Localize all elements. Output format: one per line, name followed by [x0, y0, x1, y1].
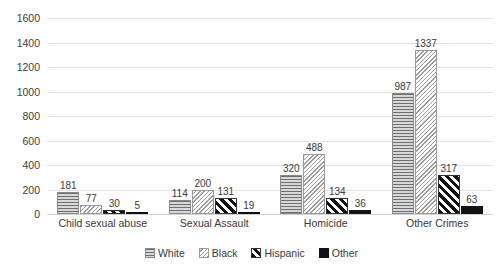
- bar-value-label: 320: [283, 164, 300, 174]
- bar-slot: 63: [461, 18, 483, 214]
- y-axis-tick-label: 0: [0, 209, 40, 220]
- bar-value-label: 181: [60, 181, 77, 191]
- bar-other-1[interactable]: 19: [238, 212, 260, 214]
- bar-slot: 134: [326, 18, 348, 214]
- bar-slot: 19: [238, 18, 260, 214]
- bar-hispanic-0[interactable]: 30: [103, 210, 125, 214]
- x-axis-category-label: Child sexual abuse: [47, 218, 159, 230]
- bar-value-label: 134: [329, 187, 346, 197]
- bar-slot: 317: [438, 18, 460, 214]
- bar-white-3[interactable]: 987: [392, 93, 414, 214]
- y-axis-tick-label: 200: [0, 185, 40, 196]
- bar-black-3[interactable]: 1337: [415, 50, 437, 214]
- y-axis-tick-label: 1200: [0, 62, 40, 73]
- bar-slot: 131: [215, 18, 237, 214]
- bar-slot: 30: [103, 18, 125, 214]
- bar-value-label: 131: [217, 187, 234, 197]
- x-axis-category-label: Other Crimes: [382, 218, 494, 230]
- bar-groups: 1817730511420013119320488134369871337317…: [47, 18, 493, 214]
- bar-slot: 200: [192, 18, 214, 214]
- bar-hispanic-1[interactable]: 131: [215, 198, 237, 214]
- bar-black-2[interactable]: 488: [303, 154, 325, 214]
- bar-other-3[interactable]: 63: [461, 206, 483, 214]
- bar-other-0[interactable]: 5: [126, 212, 148, 214]
- y-axis-tick-label: 1400: [0, 38, 40, 49]
- bar-white-1[interactable]: 114: [169, 200, 191, 214]
- legend-label: Other: [332, 248, 358, 259]
- x-axis-category-label: Homicide: [270, 218, 382, 230]
- axis-baseline: [47, 214, 493, 215]
- bar-group: 11420013119: [159, 18, 271, 214]
- bar-hispanic-2[interactable]: 134: [326, 198, 348, 214]
- bar-slot: 5: [126, 18, 148, 214]
- x-axis-category-label: Sexual Assault: [159, 218, 271, 230]
- bar-slot: 1337: [415, 18, 437, 214]
- legend-item-black[interactable]: Black: [199, 248, 238, 259]
- bar-slot: 36: [349, 18, 371, 214]
- legend-swatch-icon: [251, 248, 261, 258]
- bar-other-2[interactable]: 36: [349, 210, 371, 214]
- bar-slot: 320: [280, 18, 302, 214]
- bar-value-label: 63: [466, 195, 477, 205]
- bar-value-label: 488: [306, 143, 323, 153]
- bar-value-label: 77: [86, 194, 97, 204]
- y-axis-tick-label: 400: [0, 160, 40, 171]
- bar-white-2[interactable]: 320: [280, 175, 302, 214]
- y-axis-tick-label: 800: [0, 111, 40, 122]
- bar-value-label: 317: [440, 164, 457, 174]
- bar-slot: 114: [169, 18, 191, 214]
- legend-label: Hispanic: [264, 248, 304, 259]
- bar-value-label: 200: [194, 179, 211, 189]
- legend-swatch-icon: [199, 248, 209, 258]
- legend-item-other[interactable]: Other: [319, 248, 358, 259]
- y-axis-tick-label: 600: [0, 136, 40, 147]
- bar-value-label: 36: [355, 199, 366, 209]
- bar-value-label: 1337: [415, 39, 437, 49]
- bar-black-0[interactable]: 77: [80, 205, 102, 214]
- bar-group: 987133731763: [382, 18, 494, 214]
- bar-black-1[interactable]: 200: [192, 190, 214, 215]
- y-axis-tick-label: 1600: [0, 13, 40, 24]
- bar-slot: 181: [57, 18, 79, 214]
- bar-value-label: 5: [134, 201, 140, 211]
- legend-item-hispanic[interactable]: Hispanic: [251, 248, 304, 259]
- bar-value-label: 114: [172, 189, 188, 199]
- bar-slot: 488: [303, 18, 325, 214]
- legend-label: Black: [212, 248, 238, 259]
- bar-chart: 02004006008001000120014001600 1817730511…: [0, 0, 503, 272]
- legend-label: White: [158, 248, 185, 259]
- legend-swatch-icon: [145, 248, 155, 258]
- bar-group: 32048813436: [270, 18, 382, 214]
- bar-value-label: 19: [243, 201, 254, 211]
- legend-item-white[interactable]: White: [145, 248, 185, 259]
- bar-slot: 987: [392, 18, 414, 214]
- bar-hispanic-3[interactable]: 317: [438, 175, 460, 214]
- bar-value-label: 987: [394, 82, 411, 92]
- chart-legend: WhiteBlackHispanicOther: [0, 248, 503, 259]
- bar-value-label: 30: [109, 199, 120, 209]
- bar-slot: 77: [80, 18, 102, 214]
- bar-group: 18177305: [47, 18, 159, 214]
- bar-white-0[interactable]: 181: [57, 192, 79, 214]
- x-axis-labels: Child sexual abuseSexual AssaultHomicide…: [47, 218, 493, 230]
- legend-swatch-icon: [319, 248, 329, 258]
- y-axis-tick-label: 1000: [0, 87, 40, 98]
